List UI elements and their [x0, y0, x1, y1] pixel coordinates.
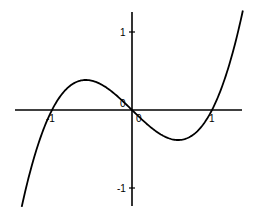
- y-tick-label-0: 0: [120, 98, 126, 109]
- x-tick-label-0: 0: [136, 113, 142, 124]
- x-tick-label-neg1: -1: [46, 113, 55, 124]
- x-tick-label-1: 1: [209, 113, 215, 124]
- cubic-plot: -1 0 1 1 0 -1: [0, 0, 253, 216]
- y-tick-label-neg1: -1: [117, 183, 126, 194]
- y-tick-label-1: 1: [120, 27, 126, 38]
